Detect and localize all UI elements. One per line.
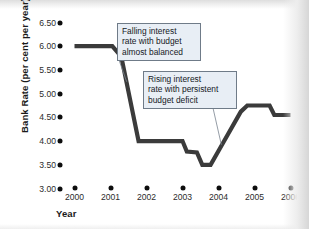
annotation-falling-line-1: Falling interest bbox=[122, 26, 196, 36]
chart-page: Bank Rate (per cent per year) Year 6.506… bbox=[0, 0, 309, 229]
annotation-rising-line-2: rate with persistent bbox=[148, 84, 232, 94]
annotation-falling-line-2: rate with budget bbox=[122, 36, 196, 46]
annotation-leader-rising bbox=[213, 108, 221, 145]
annotation-falling-line-3: almost balanced bbox=[122, 47, 196, 57]
annotation-rising-rate: Rising interest rate with persistent bud… bbox=[143, 71, 237, 109]
annotation-rising-line-1: Rising interest bbox=[148, 74, 232, 84]
annotation-rising-line-3: budget deficit bbox=[148, 95, 232, 105]
annotation-falling-rate: Falling interest rate with budget almost… bbox=[117, 23, 201, 61]
